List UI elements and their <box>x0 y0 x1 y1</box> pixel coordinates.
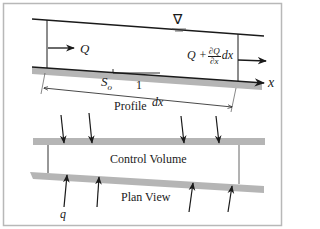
extension-line-right <box>231 88 236 112</box>
plan-top-bank <box>33 138 265 145</box>
outflow-label: Q +∂Q∂xdx <box>187 47 233 66</box>
slope-label: So <box>101 75 112 92</box>
water-surface-line <box>32 19 264 36</box>
axis-label-x: x <box>268 76 274 90</box>
slope-run-label: 1 <box>136 79 142 91</box>
outflow-arrow <box>238 60 266 61</box>
outflow-derivative: ∂Q∂x <box>208 47 221 66</box>
derivative-denominator: ∂x <box>208 57 221 66</box>
water-surface-symbol: ∇ <box>173 13 182 27</box>
extension-line-left <box>41 73 45 94</box>
plan-view-title: Plan View <box>121 191 170 203</box>
slope-subscript: o <box>108 82 113 92</box>
profile-title: Profile <box>114 100 147 112</box>
inflow-label: Q <box>80 42 89 55</box>
dx-label: dx <box>152 96 163 108</box>
outflow-label-suffix: dx <box>222 48 233 62</box>
control-volume-label: Control Volume <box>110 153 187 165</box>
lateral-inflow-label: q <box>60 208 66 220</box>
outflow-label-base: Q + <box>187 48 207 62</box>
channel-bed-band <box>32 67 262 90</box>
